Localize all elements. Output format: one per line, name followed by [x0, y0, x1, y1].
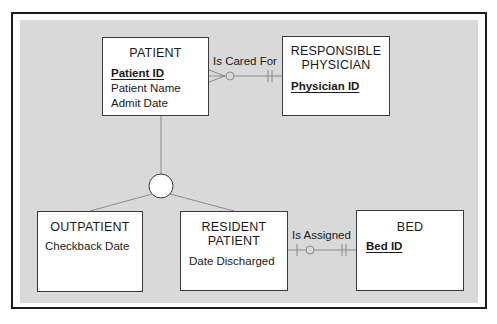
attribute-date-discharged: Date Discharged — [189, 254, 287, 269]
entity-name: PATIENT — [103, 46, 208, 60]
attribute-patient-id: Patient ID — [111, 66, 208, 81]
entity-resident-patient: RESIDENT PATIENT Date Discharged — [180, 211, 288, 291]
attribute-checkback-date: Checkback Date — [45, 239, 142, 254]
entity-name-line-2: PHYSICIAN — [283, 58, 389, 72]
subtype-circle — [149, 174, 173, 198]
entity-responsible-physician: RESPONSIBLE PHYSICIAN Physician ID — [282, 36, 390, 116]
entity-bed: BED Bed ID — [356, 210, 464, 291]
entity-name-line-1: RESIDENT — [181, 220, 287, 234]
entity-patient: PATIENT Patient ID Patient Name Admit Da… — [102, 37, 209, 116]
entity-name-line-1: RESPONSIBLE — [283, 44, 389, 58]
entity-outpatient: OUTPATIENT Checkback Date — [37, 211, 143, 292]
entity-name-line-2: PATIENT — [181, 234, 287, 248]
attribute-patient-name: Patient Name — [111, 81, 208, 96]
relationship-label-is-cared-for: Is Cared For — [213, 55, 277, 67]
relationship-label-is-assigned: Is Assigned — [292, 229, 351, 241]
entity-name: BED — [357, 220, 463, 234]
entity-name: OUTPATIENT — [38, 220, 142, 234]
attribute-admit-date: Admit Date — [111, 96, 208, 111]
attribute-physician-id: Physician ID — [291, 79, 389, 94]
attribute-bed-id: Bed ID — [366, 239, 463, 254]
